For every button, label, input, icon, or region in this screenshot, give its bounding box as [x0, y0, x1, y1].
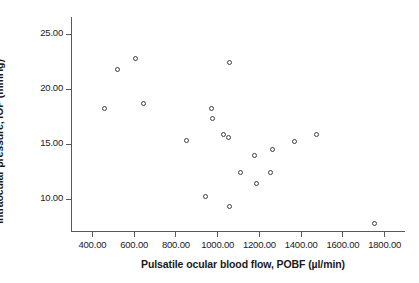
x-tick: 1400.00 [301, 232, 302, 237]
x-tick-label: 1600.00 [326, 239, 359, 250]
x-tick: 600.00 [134, 232, 135, 237]
x-tick: 1200.00 [259, 232, 260, 237]
data-point [254, 181, 259, 186]
y-tick-label: 10.00 [40, 192, 63, 203]
y-axis-title: Intraocular pressure, IOP (mmHg) [0, 0, 26, 283]
x-axis-line [71, 231, 405, 232]
data-point [133, 56, 138, 61]
data-point [372, 221, 377, 226]
data-point [252, 153, 257, 158]
data-point [226, 135, 231, 140]
scatter-plot-figure: Intraocular pressure, IOP (mmHg) 10.0015… [0, 0, 419, 283]
data-point [227, 60, 232, 65]
x-tick: 1000.00 [217, 232, 218, 237]
y-tick: 20.00 [66, 89, 71, 90]
data-point [141, 101, 146, 106]
x-tick: 1600.00 [342, 232, 343, 237]
data-point [102, 106, 107, 111]
y-axis-line [71, 17, 72, 232]
x-tick-label: 1400.00 [285, 239, 318, 250]
data-point [184, 138, 189, 143]
data-point [203, 194, 208, 199]
x-tick-label: 600.00 [120, 239, 148, 250]
y-tick-label: 20.00 [40, 82, 63, 93]
x-tick-label: 1200.00 [243, 239, 276, 250]
x-axis-title: Pulsatile ocular blood flow, POBF (µl/mi… [71, 258, 415, 270]
data-point [270, 147, 275, 152]
data-point [209, 106, 214, 111]
x-tick-label: 1800.00 [368, 239, 401, 250]
data-point [238, 170, 243, 175]
y-tick-label: 25.00 [40, 27, 63, 38]
y-axis-title-text: Intraocular pressure, IOP (mmHg) [0, 59, 5, 224]
x-tick: 800.00 [175, 232, 176, 237]
plot-area: 10.0015.0020.0025.00 400.00600.00800.001… [71, 17, 405, 232]
data-point [268, 170, 273, 175]
data-point [115, 67, 120, 72]
data-point [210, 116, 215, 121]
x-tick-label: 1000.00 [201, 239, 234, 250]
y-tick: 10.00 [66, 199, 71, 200]
x-tick-label: 800.00 [162, 239, 190, 250]
y-tick-label: 15.00 [40, 137, 63, 148]
x-tick: 1800.00 [384, 232, 385, 237]
x-tick: 400.00 [92, 232, 93, 237]
x-tick-label: 400.00 [78, 239, 106, 250]
data-point [292, 139, 297, 144]
data-point [227, 204, 232, 209]
y-tick: 15.00 [66, 144, 71, 145]
data-point [314, 132, 319, 137]
y-tick: 25.00 [66, 34, 71, 35]
